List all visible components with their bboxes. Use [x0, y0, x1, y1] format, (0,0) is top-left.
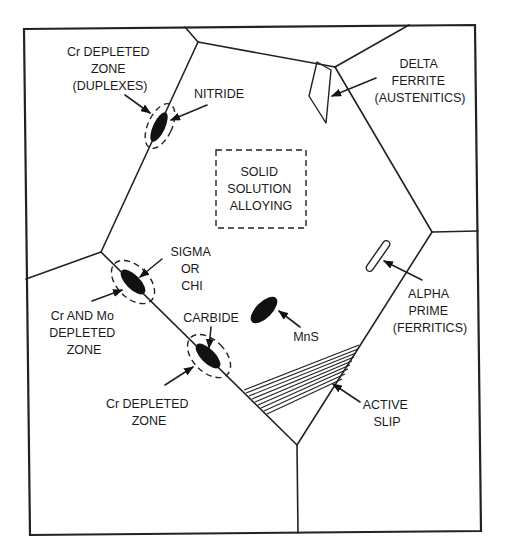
carbide-precipitate: [179, 326, 238, 385]
label-cr-mo-depleted: Cr AND Mo DEPLETED ZONE: [49, 309, 118, 357]
sigma-chi-precipitate: [103, 252, 162, 311]
arrow-mns: [279, 311, 300, 327]
mns-inclusion: [246, 292, 281, 327]
label-mns: MnS: [293, 330, 319, 344]
arrow-cr-depleted-duplexes: [125, 95, 150, 113]
arrow-delta-ferrite: [332, 78, 376, 96]
label-active-slip: ACTIVE SLIP: [363, 398, 412, 429]
arrow-cr-depleted-zone: [165, 367, 193, 385]
alpha-prime-particle: [365, 239, 391, 273]
label-carbide: CARBIDE: [183, 311, 239, 325]
arrow-active-slip: [333, 384, 360, 402]
arrow-sigma-chi: [140, 259, 162, 277]
arrow-carbide: [209, 327, 211, 348]
arrow-cr-mo-depleted: [92, 290, 122, 301]
label-nitride: NITRIDE: [194, 87, 244, 101]
nitride-precipitate: [139, 99, 181, 153]
arrow-nitride: [171, 105, 207, 120]
label-alpha-prime: ALPHA PRIME (FERRITICS): [393, 287, 467, 335]
microstructure-diagram: Cr DEPLETED ZONE (DUPLEXES) NITRIDE DELT…: [0, 0, 507, 554]
label-delta-ferrite: DELTA FERRITE (AUSTENITICS): [375, 57, 466, 105]
label-solid-solution: SOLID SOLUTION ALLOYING: [227, 165, 294, 213]
label-sigma-chi: SIGMA OR CHI: [170, 245, 213, 293]
label-cr-depleted-duplexes: Cr DEPLETED ZONE (DUPLEXES): [67, 45, 153, 93]
label-cr-depleted-zone: Cr DEPLETED ZONE: [106, 397, 192, 428]
delta-ferrite-particle: [309, 62, 331, 123]
active-slip-band: [244, 345, 359, 414]
